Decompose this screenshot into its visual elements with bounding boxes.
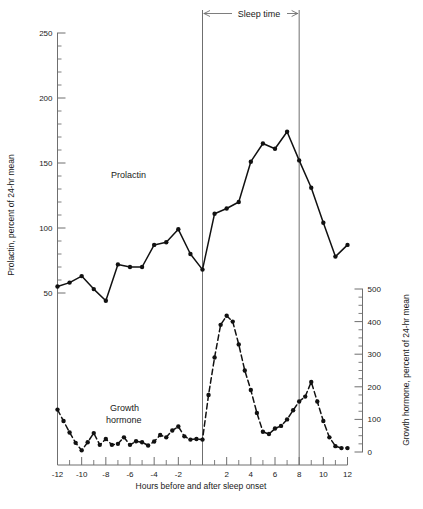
growth-hormone-data-point [243, 368, 247, 372]
growth-hormone-data-point [291, 408, 295, 412]
growth-hormone-data-point [55, 407, 59, 411]
x-axis-tick-label: -12 [52, 470, 64, 479]
growth-hormone-data-point [182, 434, 186, 438]
right-axis-tick-label: 500 [368, 285, 382, 294]
x-axis-tick-label: 10 [319, 470, 328, 479]
growth-hormone-data-point [297, 399, 301, 403]
prolactin-inline-label: Prolactin [111, 170, 146, 180]
left-axis-tick-label: 200 [39, 94, 53, 103]
growth-hormone-data-point [315, 399, 319, 403]
left-axis-tick-label: 50 [44, 289, 53, 298]
y-axis-title-right: Growth hormone, percent of 24-hr mean [401, 294, 411, 446]
prolactin-data-point [212, 212, 216, 216]
right-axis-tick-label: 400 [368, 318, 382, 327]
x-axis-tick-label: 8 [297, 470, 302, 479]
x-axis-tick-label: 6 [273, 470, 278, 479]
right-axis-tick-label: 100 [368, 415, 382, 424]
growth-hormone-data-point [134, 439, 138, 443]
prolactin-data-point [309, 186, 313, 190]
prolactin-data-point [273, 147, 277, 151]
left-axis-tick-label: 250 [39, 29, 53, 38]
prolactin-data-point [188, 252, 192, 256]
growth-hormone-data-point [237, 342, 241, 346]
growth-hormone-data-point [188, 437, 192, 441]
x-axis-tick-label: 2 [224, 470, 229, 479]
right-axis-tick-label: 0 [368, 448, 373, 457]
x-axis-tick-label: -6 [126, 470, 134, 479]
growth-hormone-data-point [261, 430, 265, 434]
growth-hormone-data-point [339, 446, 343, 450]
growth-hormone-data-point [170, 428, 174, 432]
prolactin-data-point [176, 227, 180, 231]
growth-hormone-data-point [249, 388, 253, 392]
growth-hormone-data-point [98, 443, 102, 447]
x-axis-title: Hours before and after sleep onset [136, 481, 268, 491]
prolactin-data-point [249, 160, 253, 164]
growth-hormone-data-point [110, 443, 114, 447]
prolactin-data-point [104, 299, 108, 303]
y-axis-title-left: Prolactin, percent of 24-hr mean [6, 154, 16, 276]
growth-hormone-data-point [92, 431, 96, 435]
prolactin-data-point [140, 265, 144, 269]
prolactin-data-point [261, 141, 265, 145]
growth-hormone-data-point [86, 440, 90, 444]
growth-hormone-data-point [176, 424, 180, 428]
sleep-time-label: Sleep time [238, 9, 281, 19]
growth-hormone-data-point [285, 417, 289, 421]
growth-hormone-data-point [309, 380, 313, 384]
prolactin-data-point [128, 265, 132, 269]
x-axis-tick-label: -2 [175, 470, 183, 479]
chart-background [0, 0, 423, 509]
growth-hormone-data-point [327, 435, 331, 439]
growth-hormone-data-point [267, 432, 271, 436]
left-axis-tick-label: 100 [39, 224, 53, 233]
prolactin-data-point [200, 267, 204, 271]
prolactin-data-point [285, 130, 289, 134]
right-axis-tick-label: 200 [368, 383, 382, 392]
growth-hormone-data-point [279, 424, 283, 428]
growth-hormone-data-point [218, 323, 222, 327]
growth-hormone-data-point [61, 419, 65, 423]
left-axis-tick-label: 150 [39, 159, 53, 168]
growth-hormone-data-point [79, 448, 83, 452]
prolactin-data-point [152, 243, 156, 247]
growth-hormone-data-point [231, 319, 235, 323]
x-axis-tick-label: -10 [76, 470, 88, 479]
right-axis-tick-label: 300 [368, 350, 382, 359]
x-axis-tick-label: -4 [151, 470, 159, 479]
growth-hormone-data-point [152, 439, 156, 443]
growth-hormone-data-point [303, 394, 307, 398]
growth-hormone-data-point [206, 393, 210, 397]
prolactin-data-point [333, 254, 337, 258]
prolactin-data-point [92, 287, 96, 291]
growth-hormone-data-point [73, 441, 77, 445]
prolactin-data-point [67, 280, 71, 284]
growth-hormone-data-point [224, 314, 228, 318]
prolactin-data-point [116, 262, 120, 266]
x-axis-tick-label: 12 [343, 470, 352, 479]
growth-hormone-data-point [321, 419, 325, 423]
growth-hormone-data-point [273, 426, 277, 430]
prolactin-data-point [345, 243, 349, 247]
growth-hormone-data-point [333, 444, 337, 448]
growth-hormone-data-point [345, 446, 349, 450]
growth-hormone-data-point [128, 443, 132, 447]
x-axis-tick-label: 4 [249, 470, 254, 479]
growth-hormone-data-point [212, 355, 216, 359]
prolactin-data-point [79, 274, 83, 278]
growth-hormone-data-point [194, 437, 198, 441]
growth-hormone-data-point [164, 435, 168, 439]
growth-hormone-data-point [146, 443, 150, 447]
chart-root: 50100150200250 0100200300400500 -12-10-8… [0, 0, 423, 509]
growth-hormone-data-point [67, 430, 71, 434]
growth-hormone-data-point [200, 437, 204, 441]
growth-hormone-data-point [104, 437, 108, 441]
x-axis-tick-label: -8 [102, 470, 110, 479]
growth-hormone-data-point [255, 411, 259, 415]
growth-hormone-data-point [122, 435, 126, 439]
growth-hormone-data-point [116, 442, 120, 446]
growth-hormone-data-point [140, 440, 144, 444]
hormone-rhythm-chart: 50100150200250 0100200300400500 -12-10-8… [0, 0, 423, 509]
prolactin-data-point [224, 206, 228, 210]
prolactin-data-point [55, 284, 59, 288]
